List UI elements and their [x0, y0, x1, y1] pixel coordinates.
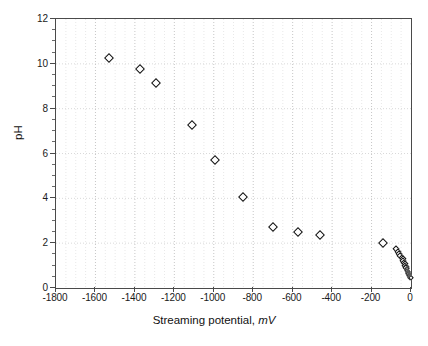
y-axis-minor-tick [52, 40, 55, 41]
y-axis-minor-tick [52, 96, 55, 97]
y-axis-tick-label: 10 [37, 57, 48, 68]
y-axis-tick-label: 6 [42, 147, 48, 158]
y-axis-minor-tick [52, 276, 55, 277]
x-axis-tick-label: -600 [282, 292, 301, 303]
y-axis-minor-tick [52, 119, 55, 120]
y-axis-minor-tick [52, 186, 55, 187]
y-axis-tick [50, 153, 55, 154]
y-axis-minor-tick [52, 209, 55, 210]
data-point [151, 78, 161, 88]
y-axis-tick-label: 12 [37, 13, 48, 24]
x-axis-tick-label: -200 [361, 292, 380, 303]
y-axis-minor-tick [52, 141, 55, 142]
y-axis-minor-tick [52, 231, 55, 232]
y-axis-minor-tick [52, 253, 55, 254]
y-axis-tick [50, 18, 55, 19]
x-axis-tick-label: -1200 [161, 292, 186, 303]
x-axis-tick-label: -800 [243, 292, 262, 303]
data-point [135, 64, 145, 74]
data-point [293, 227, 303, 237]
data-point [268, 222, 278, 232]
y-axis-tick-label: 0 [42, 282, 48, 293]
y-axis-tick-label: 8 [42, 102, 48, 113]
x-axis-tick-label: -1800 [43, 292, 68, 303]
y-axis-tick [50, 242, 55, 243]
data-point [104, 53, 114, 63]
y-axis-minor-tick [52, 220, 55, 221]
chart-figure: -1800-1600-1400-1200-1000-800-600-400-20… [0, 0, 428, 346]
y-axis-minor-tick [52, 52, 55, 53]
y-axis-tick [50, 108, 55, 109]
y-axis-minor-tick [52, 29, 55, 30]
y-axis-tick-label: 2 [42, 237, 48, 248]
x-axis-tick-label: -400 [321, 292, 340, 303]
y-axis-minor-tick [52, 85, 55, 86]
x-axis-tick-label: -1400 [121, 292, 146, 303]
x-axis-tick-label: 0 [407, 292, 412, 303]
data-points-layer [56, 19, 411, 288]
y-axis-title: pH [12, 125, 24, 140]
data-point [187, 121, 197, 131]
x-axis-tick-label: -1600 [82, 292, 107, 303]
x-axis-tick-label: -1000 [200, 292, 225, 303]
y-axis-minor-tick [52, 164, 55, 165]
y-axis-tick-label: 4 [42, 192, 48, 203]
y-axis-minor-tick [52, 175, 55, 176]
data-point [238, 192, 248, 202]
x-axis-title-unit: mV [258, 314, 275, 326]
data-point [210, 155, 220, 165]
y-axis-tick [50, 287, 55, 288]
y-axis-minor-tick [52, 265, 55, 266]
y-axis-minor-tick [52, 130, 55, 131]
y-axis-minor-tick [52, 74, 55, 75]
y-axis-tick [50, 63, 55, 64]
plot-area [55, 18, 412, 289]
x-axis-title-text: Streaming potential, [153, 314, 255, 326]
y-axis-tick [50, 197, 55, 198]
x-axis-title: Streaming potential, mV [0, 314, 428, 326]
data-point [378, 238, 388, 248]
data-point [315, 230, 325, 240]
